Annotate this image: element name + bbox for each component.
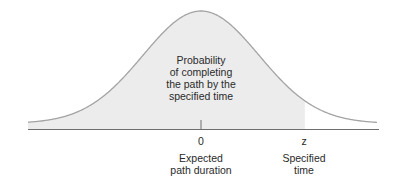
- normal-distribution-figure: Probability of completing the path by th…: [0, 0, 402, 189]
- region-label-line-4: specified time: [169, 90, 233, 102]
- region-label-line-3: the path by the: [166, 78, 236, 90]
- z-caption-line-1: Specified: [282, 152, 325, 164]
- mean-tick-label: 0: [198, 135, 204, 147]
- z-tick-label: z: [301, 135, 306, 147]
- region-label-line-2: of completing: [170, 66, 233, 78]
- mean-caption-line-2: path duration: [170, 164, 231, 176]
- z-caption-line-2: time: [294, 164, 314, 176]
- mean-caption-line-1: Expected: [179, 152, 223, 164]
- region-label-line-1: Probability: [176, 54, 226, 66]
